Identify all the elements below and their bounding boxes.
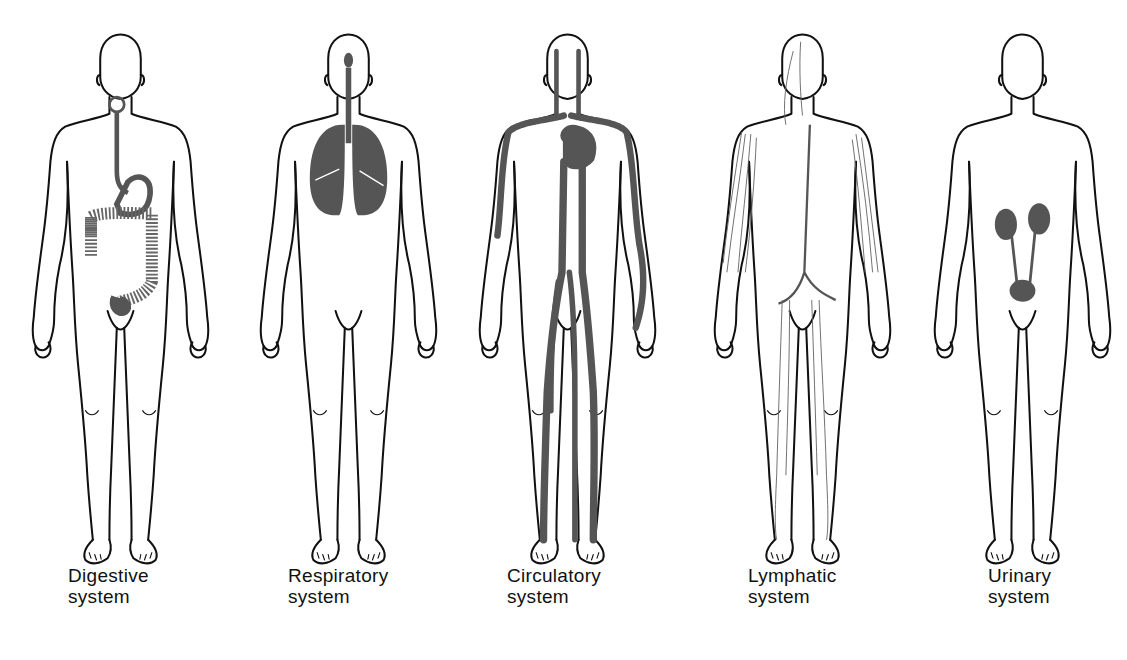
figure-respiratory-system: Respiratory system (236, 0, 461, 660)
figure-circulatory-system: Circulatory system (455, 0, 680, 660)
large-intestine (91, 213, 152, 302)
figure-lymphatic-system: Lymphatic system (690, 0, 915, 660)
figure-digestive-system: Digestive system (8, 0, 233, 660)
leg-vein (551, 282, 558, 411)
head-lymph (784, 42, 802, 125)
body-outline-lymphatic (690, 0, 915, 600)
caption-digestive: Digestive system (68, 565, 149, 607)
body-outline-urinary (910, 0, 1127, 600)
leg-lymph (775, 300, 828, 540)
kidney-right (995, 209, 1017, 240)
caption-respiratory: Respiratory system (288, 565, 388, 607)
nasal-cavity (344, 53, 353, 68)
stomach (117, 177, 150, 214)
leg-artery (569, 272, 575, 539)
mouth-pharynx (109, 97, 124, 112)
kidney-left (1028, 203, 1050, 234)
lung-right (310, 125, 345, 216)
body-outline-respiratory (236, 0, 461, 600)
thoracic-duct (779, 125, 836, 304)
caption-line1: Respiratory (288, 565, 388, 586)
rectum (111, 296, 129, 314)
caption-line2: system (988, 586, 1051, 607)
caption-line1: Urinary (988, 565, 1051, 586)
urinary-organs (995, 203, 1050, 302)
lymphatic-vessels (723, 42, 878, 540)
caption-circulatory: Circulatory system (507, 565, 601, 607)
neck-vessels (556, 51, 578, 116)
caption-urinary: Urinary system (988, 565, 1051, 607)
bladder (1010, 280, 1036, 302)
caption-line2: system (507, 586, 601, 607)
body-outline-digestive (8, 0, 233, 600)
caption-line1: Digestive (68, 565, 149, 586)
arm-vessels-right (497, 116, 563, 236)
circulatory-organs (497, 51, 643, 540)
respiratory-organs (310, 53, 387, 215)
caption-line2: system (288, 586, 388, 607)
body-outline-circulatory (455, 0, 680, 600)
caption-line1: Lymphatic (748, 565, 837, 586)
digestive-organs (91, 97, 152, 314)
ureters (1011, 228, 1035, 283)
caption-lymphatic: Lymphatic system (748, 565, 837, 607)
lung-left (352, 125, 387, 216)
caption-line1: Circulatory (507, 565, 601, 586)
caption-line2: system (68, 586, 149, 607)
caption-line2: system (748, 586, 837, 607)
figure-urinary-system: Urinary system (910, 0, 1127, 660)
vena-cava-vein-left (582, 162, 594, 540)
